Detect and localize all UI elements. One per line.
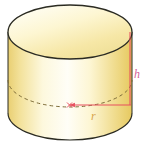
- radius-label: r: [91, 110, 96, 122]
- cylinder-svg: [0, 0, 142, 147]
- height-label: h: [134, 68, 140, 80]
- top-face: [8, 5, 132, 59]
- cylinder-figure: r h: [0, 0, 142, 147]
